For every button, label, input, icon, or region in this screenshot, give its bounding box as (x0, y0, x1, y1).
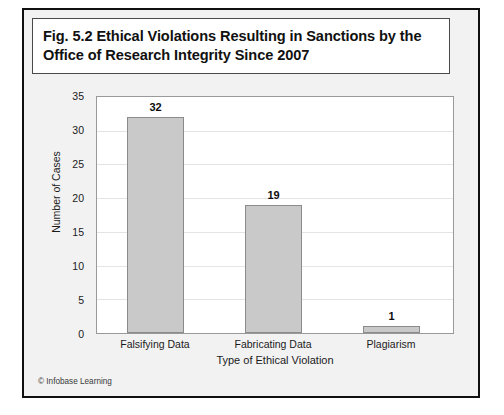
page-title: Fig. 5.2 Ethical Violations Resulting in… (43, 27, 439, 64)
figure-frame: Fig. 5.2 Ethical Violations Resulting in… (22, 8, 480, 398)
bar-group-falsifying-data[interactable]: 32 (127, 97, 184, 333)
x-axis-tick: Falsifying Data (95, 338, 215, 350)
credit-line: © Infobase Learning (38, 377, 112, 386)
x-axis-label: Type of Ethical Violation (96, 354, 454, 366)
chart-panel: Number of Cases 35 30 25 20 15 10 5 0 32 (32, 82, 470, 370)
bar-value-label: 1 (363, 310, 420, 322)
bar-fabricating-data[interactable] (245, 205, 302, 333)
y-axis-tick: 0 (78, 328, 84, 340)
y-axis-tick: 10 (72, 260, 84, 272)
bar-group-plagiarism[interactable]: 1 (363, 97, 420, 333)
y-axis-tick: 15 (72, 226, 84, 238)
y-axis-tick: 35 (72, 90, 84, 102)
bar-falsifying-data[interactable] (127, 117, 184, 333)
bar-value-label: 32 (127, 101, 184, 113)
bar-group-fabricating-data[interactable]: 19 (245, 97, 302, 333)
figure-title-box: Fig. 5.2 Ethical Violations Resulting in… (32, 18, 450, 74)
y-axis-tick: 25 (72, 158, 84, 170)
bar-series: 32 19 1 (97, 97, 453, 333)
y-axis-tick-labels: 35 30 25 20 15 10 5 0 (32, 96, 90, 334)
bar-plagiarism[interactable] (363, 326, 420, 333)
x-axis-tick: Fabricating Data (213, 338, 333, 350)
y-axis-tick: 30 (72, 124, 84, 136)
y-axis-tick: 20 (72, 192, 84, 204)
bar-value-label: 19 (245, 189, 302, 201)
x-axis-tick: Plagiarism (331, 338, 451, 350)
y-axis-tick: 5 (78, 294, 84, 306)
